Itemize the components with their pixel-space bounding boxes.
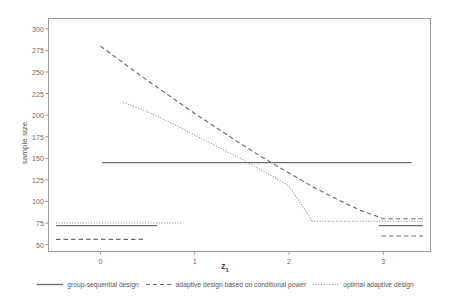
y-axis-tick-label: 50 <box>20 241 44 248</box>
legend-entry: adaptive design based on conditional pow… <box>146 281 306 288</box>
legend-line-swatch-solid <box>37 281 63 288</box>
y-axis-tick-label: 250 <box>20 69 44 76</box>
x-axis-tick-label: 1 <box>193 258 197 265</box>
y-axis-tick-label: 100 <box>20 198 44 205</box>
y-axis-tick-label: 175 <box>20 133 44 140</box>
y-axis-tick-label: 150 <box>20 155 44 162</box>
y-axis-tick-label: 300 <box>20 25 44 32</box>
legend-label: adaptive design based on conditional pow… <box>176 281 306 288</box>
plot-frame <box>49 19 431 252</box>
legend-line-swatch-dashed <box>146 281 172 288</box>
x-axis-tick-label: 3 <box>381 258 385 265</box>
series-line-dashed-curve <box>100 46 423 219</box>
y-axis-tick-label: 200 <box>20 112 44 119</box>
y-axis-tick-label: 275 <box>20 47 44 54</box>
x-axis-label: z1 <box>221 261 229 273</box>
series-line-dotted-curve <box>123 102 313 221</box>
y-axis-tick-label: 75 <box>20 220 44 227</box>
y-axis-tick-label: 225 <box>20 90 44 97</box>
chart-legend: group-sequential designadaptive design b… <box>0 281 451 288</box>
x-axis-tick-label: 2 <box>287 258 291 265</box>
x-axis-tick-label: 0 <box>98 258 102 265</box>
legend-entry: group-sequential design <box>37 281 139 288</box>
chart-figure: sample size z1 group-sequential designad… <box>0 0 451 304</box>
legend-line-swatch-dotted <box>313 281 339 288</box>
legend-entry: optimal adaptive design <box>313 281 413 288</box>
legend-label: optimal adaptive design <box>343 281 413 288</box>
y-axis-tick-label: 125 <box>20 176 44 183</box>
legend-label: group-sequential design <box>67 281 139 288</box>
